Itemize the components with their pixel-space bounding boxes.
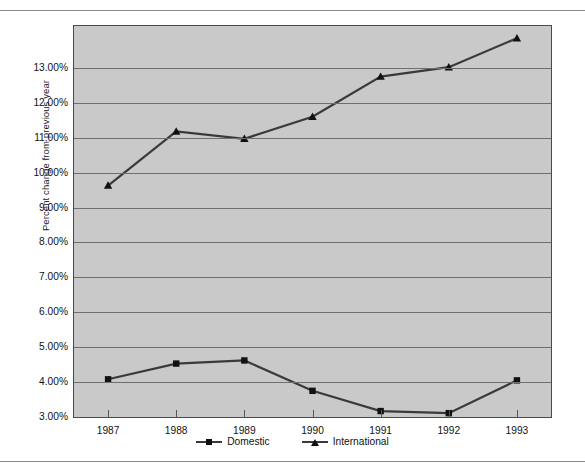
y-axis-tick-label: 10.00% — [2, 166, 68, 177]
plot-area — [73, 25, 552, 418]
y-axis-tick-label: 7.00% — [2, 271, 68, 282]
x-axis-tick-label: 1987 — [78, 425, 138, 436]
x-axis-tick-label: 1990 — [283, 425, 343, 436]
series-line-domestic — [108, 360, 517, 413]
gridline — [74, 68, 551, 69]
data-point-marker — [173, 360, 179, 366]
series-lines — [74, 26, 551, 417]
gridline — [74, 103, 551, 104]
x-axis-tick-label: 1989 — [214, 425, 274, 436]
y-axis-tick-label: 5.00% — [2, 341, 68, 352]
series-line-international — [108, 38, 517, 185]
gridline — [74, 312, 551, 313]
legend-item-domestic[interactable]: Domestic — [196, 436, 269, 447]
y-axis-tick-label: 3.00% — [2, 411, 68, 422]
line-chart: Percent change from previous year 3.00%4… — [0, 0, 585, 468]
y-axis-tick-label: 12.00% — [2, 96, 68, 107]
x-axis-tick-mark — [313, 410, 314, 418]
x-axis-tick-mark — [108, 410, 109, 418]
x-axis-tick-mark — [517, 410, 518, 418]
y-axis-tick-label: 4.00% — [2, 376, 68, 387]
data-point-marker — [309, 388, 315, 394]
x-axis-tick-label: 1991 — [351, 425, 411, 436]
gridline — [74, 208, 551, 209]
legend-label-domestic: Domestic — [227, 436, 269, 447]
data-point-marker — [513, 34, 521, 41]
gridline — [74, 242, 551, 243]
y-axis-tick-label: 9.00% — [2, 201, 68, 212]
x-axis-tick-label: 1988 — [146, 425, 206, 436]
gridline — [74, 382, 551, 383]
chart-legend: Domestic International — [0, 436, 585, 447]
x-axis-tick-mark — [381, 410, 382, 418]
triangle-marker-icon — [302, 437, 328, 447]
gridline — [74, 277, 551, 278]
y-axis-tick-label: 11.00% — [2, 131, 68, 142]
gridline — [74, 173, 551, 174]
legend-item-international[interactable]: International — [302, 436, 389, 447]
x-axis-tick-label: 1992 — [419, 425, 479, 436]
y-axis-tick-label: 6.00% — [2, 306, 68, 317]
y-axis-tick-label: 8.00% — [2, 236, 68, 247]
x-axis-tick-mark — [176, 410, 177, 418]
x-axis-tick-mark — [449, 410, 450, 418]
gridline — [74, 138, 551, 139]
gridline — [74, 347, 551, 348]
y-axis-ticks: 3.00%4.00%5.00%6.00%7.00%8.00%9.00%10.00… — [0, 0, 73, 468]
x-axis-tick-mark — [244, 410, 245, 418]
data-point-marker — [241, 357, 247, 363]
bottom-divider-rule — [0, 461, 585, 462]
x-axis-tick-label: 1993 — [487, 425, 547, 436]
y-axis-tick-label: 13.00% — [2, 61, 68, 72]
legend-label-international: International — [333, 436, 389, 447]
square-marker-icon — [196, 437, 222, 447]
